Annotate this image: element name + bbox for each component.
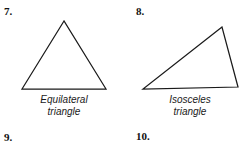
problem-number-8: 8. — [136, 6, 144, 17]
caption-line-1: Isosceles — [140, 94, 240, 106]
equilateral-triangle-shape — [22, 21, 106, 89]
problem-number-7: 7. — [4, 6, 12, 17]
caption-line-2: triangle — [140, 106, 240, 118]
caption-line-1: Equilateral — [14, 94, 114, 106]
isosceles-triangle-caption: Isosceles triangle — [140, 94, 240, 117]
figures-canvas — [0, 0, 246, 150]
caption-line-2: triangle — [14, 106, 114, 118]
problem-number-10: 10. — [136, 131, 150, 142]
worksheet-page: 7. 8. 9. 10. Equilateral triangle Isosce… — [0, 0, 246, 150]
problem-number-9: 9. — [4, 132, 12, 143]
isosceles-triangle-shape — [143, 27, 238, 89]
equilateral-triangle-caption: Equilateral triangle — [14, 94, 114, 117]
